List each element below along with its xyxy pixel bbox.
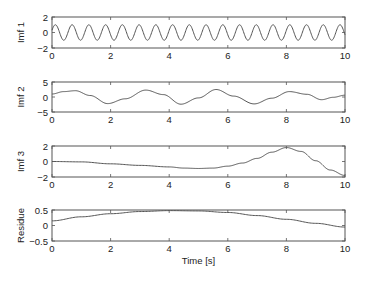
x-tick-label: 2 bbox=[108, 114, 113, 125]
x-tick-label: 4 bbox=[167, 50, 172, 61]
y-tick-label: 0 bbox=[43, 220, 48, 231]
subplot-4: 0246810−0.500.5ResidueTime [s] bbox=[15, 205, 350, 267]
series-line-imf-2 bbox=[52, 90, 345, 105]
subplot-2: 0246810−505Imf 2 bbox=[15, 77, 350, 126]
x-tick-label: 0 bbox=[49, 243, 54, 254]
x-tick-label: 10 bbox=[340, 243, 351, 254]
axes-frame bbox=[52, 17, 345, 48]
x-tick-label: 2 bbox=[108, 50, 113, 61]
y-tick-label: 2 bbox=[43, 141, 48, 152]
y-tick-label: 2 bbox=[43, 12, 48, 23]
y-tick-label: 5 bbox=[43, 77, 48, 88]
x-axis-label: Time [s] bbox=[182, 255, 215, 266]
x-tick-label: 8 bbox=[284, 114, 289, 125]
y-tick-label: −2 bbox=[37, 43, 48, 54]
y-axis-label: Imf 1 bbox=[15, 22, 26, 43]
y-tick-label: −2 bbox=[37, 172, 48, 183]
x-tick-label: 0 bbox=[49, 114, 54, 125]
figure: 0246810−202Imf 10246810−505Imf 20246810−… bbox=[0, 0, 365, 283]
axes-frame bbox=[52, 210, 345, 241]
y-axis-label: Residue bbox=[15, 208, 26, 243]
y-tick-label: 0 bbox=[43, 92, 48, 103]
x-tick-label: 2 bbox=[108, 179, 113, 190]
x-tick-label: 8 bbox=[284, 243, 289, 254]
x-tick-label: 10 bbox=[340, 179, 351, 190]
x-tick-label: 6 bbox=[225, 243, 230, 254]
subplot-3: 0246810−202Imf 3 bbox=[15, 141, 350, 191]
y-axis-label: Imf 2 bbox=[15, 86, 26, 107]
y-tick-label: −0.5 bbox=[29, 236, 48, 247]
x-tick-label: 4 bbox=[167, 179, 172, 190]
x-tick-label: 10 bbox=[340, 50, 351, 61]
x-tick-label: 8 bbox=[284, 50, 289, 61]
x-tick-label: 2 bbox=[108, 243, 113, 254]
x-tick-label: 6 bbox=[225, 179, 230, 190]
x-tick-label: 4 bbox=[167, 243, 172, 254]
y-tick-label: 0 bbox=[43, 156, 48, 167]
x-tick-label: 0 bbox=[49, 179, 54, 190]
series-line-residue bbox=[52, 211, 345, 227]
y-tick-label: 0.5 bbox=[35, 205, 48, 216]
series-line-imf-3 bbox=[52, 148, 345, 176]
y-tick-label: −5 bbox=[37, 107, 48, 118]
subplot-1: 0246810−202Imf 1 bbox=[15, 12, 350, 62]
x-tick-label: 6 bbox=[225, 50, 230, 61]
y-axis-label: Imf 3 bbox=[15, 151, 26, 172]
y-tick-label: 0 bbox=[43, 27, 48, 38]
axes-frame bbox=[52, 146, 345, 177]
x-tick-label: 0 bbox=[49, 50, 54, 61]
x-tick-label: 6 bbox=[225, 114, 230, 125]
series-line-imf-1 bbox=[52, 25, 345, 41]
x-tick-label: 4 bbox=[167, 114, 172, 125]
x-tick-label: 8 bbox=[284, 179, 289, 190]
x-tick-label: 10 bbox=[340, 114, 351, 125]
